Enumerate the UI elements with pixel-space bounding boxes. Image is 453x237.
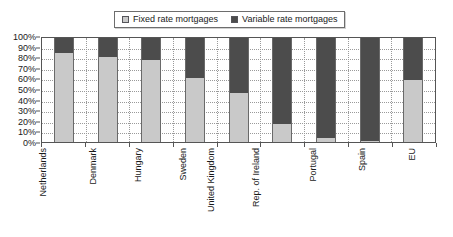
stacked-bar <box>316 38 336 142</box>
bar-segment-fixed-rate <box>55 53 73 142</box>
x-axis-category-label: Spain <box>359 148 368 171</box>
bar-slot <box>173 38 217 142</box>
x-axis-tick-mark <box>129 143 130 147</box>
stacked-bar-chart: Fixed rate mortgages Variable rate mortg… <box>0 0 453 237</box>
x-axis-label-slot: Netherlands <box>41 143 85 235</box>
x-axis-tick-mark <box>85 143 86 147</box>
bar-segment-fixed-rate <box>404 80 422 142</box>
x-axis-category-label: Portugal <box>310 148 319 182</box>
y-axis-tick-mark <box>36 90 40 91</box>
x-axis-label-slot: Portugal <box>304 143 348 235</box>
y-axis-tick-mark <box>36 111 40 112</box>
bar-slot <box>391 38 435 142</box>
bar-slot <box>260 38 304 142</box>
stacked-bar <box>185 38 205 142</box>
bar-slot <box>348 38 392 142</box>
y-axis-tick-label: 100% <box>13 33 36 42</box>
bar-segment-fixed-rate <box>99 57 117 142</box>
stacked-bar <box>272 38 292 142</box>
stacked-bar <box>141 38 161 142</box>
bar-segment-fixed-rate <box>317 138 335 142</box>
x-axis-category-label: Denmark <box>89 148 98 185</box>
bar-segment-variable-rate <box>186 38 204 78</box>
x-axis-tick-mark <box>173 143 174 147</box>
x-axis-category-label: EU <box>408 148 417 161</box>
x-axis-tick-mark <box>217 143 218 147</box>
x-axis: NetherlandsDenmarkHungarySwedenUnited Ki… <box>41 143 436 235</box>
legend-swatch-fixed-icon <box>122 16 129 23</box>
bar-segment-fixed-rate <box>230 93 248 142</box>
bar-slot <box>42 38 86 142</box>
x-axis-tick-mark <box>348 143 349 147</box>
stacked-bar <box>229 38 249 142</box>
x-axis-tick-mark <box>436 143 437 147</box>
y-axis-tick-mark <box>36 58 40 59</box>
bar-segment-fixed-rate <box>142 60 160 142</box>
bar-segment-fixed-rate <box>361 141 379 142</box>
x-axis-label-slot: Hungary <box>129 143 173 235</box>
x-axis-tick-mark <box>392 143 393 147</box>
bar-slot <box>217 38 261 142</box>
y-axis: 100%90%80%70%60%50%40%30%20%10%0% <box>0 37 39 143</box>
y-axis-tick-label: 70% <box>18 64 36 73</box>
bar-segment-fixed-rate <box>186 78 204 142</box>
y-axis-tick-mark <box>36 143 40 144</box>
bar-segment-variable-rate <box>230 38 248 93</box>
bar-segment-variable-rate <box>404 38 422 80</box>
legend-item-fixed-rate-mortgages: Fixed rate mortgages <box>122 15 218 24</box>
legend-label-fixed: Fixed rate mortgages <box>133 15 218 24</box>
bar-slot <box>129 38 173 142</box>
y-axis-tick-label: 90% <box>18 43 36 52</box>
bars-layer <box>42 38 435 142</box>
x-axis-label-slot: Rep. of Ireland <box>260 143 304 235</box>
x-axis-tick-mark <box>41 143 42 147</box>
y-axis-tick-label: 0% <box>23 139 36 148</box>
legend-label-variable: Variable rate mortgages <box>242 15 337 24</box>
x-axis-category-label: United Kingdom <box>206 148 215 212</box>
y-axis-tick-label: 10% <box>18 128 36 137</box>
x-axis-tick-mark <box>304 143 305 147</box>
x-axis-label-slot: EU <box>392 143 436 235</box>
legend-item-variable-rate-mortgages: Variable rate mortgages <box>231 15 337 24</box>
stacked-bar <box>403 38 423 142</box>
y-axis-tick-mark <box>36 132 40 133</box>
y-axis-tick-label: 30% <box>18 107 36 116</box>
bar-segment-fixed-rate <box>273 124 291 142</box>
y-axis-tick-label: 20% <box>18 117 36 126</box>
x-axis-label-slot: Spain <box>348 143 392 235</box>
y-axis-tick-mark <box>36 47 40 48</box>
y-axis-tick-label: 60% <box>18 75 36 84</box>
stacked-bar <box>98 38 118 142</box>
x-axis-category-label: Sweden <box>178 148 187 181</box>
bar-segment-variable-rate <box>317 38 335 138</box>
bar-segment-variable-rate <box>55 38 73 53</box>
y-axis-tick-label: 40% <box>18 96 36 105</box>
stacked-bar <box>360 38 380 142</box>
chart-legend: Fixed rate mortgages Variable rate mortg… <box>114 11 345 28</box>
x-axis-category-label: Rep. of Ireland <box>253 148 262 207</box>
x-axis-category-label: Netherlands <box>39 148 48 197</box>
bar-segment-variable-rate <box>99 38 117 57</box>
legend-swatch-variable-icon <box>231 16 238 23</box>
bar-segment-variable-rate <box>273 38 291 124</box>
y-axis-tick-mark <box>36 37 40 38</box>
plot-area <box>41 37 436 143</box>
y-axis-tick-mark <box>36 68 40 69</box>
y-axis-tick-label: 50% <box>18 86 36 95</box>
bar-slot <box>86 38 130 142</box>
y-axis-tick-mark <box>36 79 40 80</box>
y-axis-tick-mark <box>36 100 40 101</box>
bar-segment-variable-rate <box>361 38 379 141</box>
x-axis-tick-mark <box>260 143 261 147</box>
x-axis-category-label: Hungary <box>134 148 143 182</box>
x-axis-label-slot: Denmark <box>85 143 129 235</box>
bar-segment-variable-rate <box>142 38 160 60</box>
y-axis-tick-mark <box>36 121 40 122</box>
stacked-bar <box>54 38 74 142</box>
y-axis-tick-label: 80% <box>18 54 36 63</box>
bar-slot <box>304 38 348 142</box>
